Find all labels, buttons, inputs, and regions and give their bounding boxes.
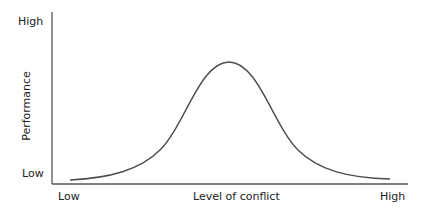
chart-canvas [0,0,429,214]
y-tick-low: Low [22,167,44,180]
performance-curve [70,62,390,180]
y-axis-title: Performance [20,71,33,141]
x-tick-high: High [380,190,405,203]
x-tick-low: Low [58,190,80,203]
y-tick-high: High [18,15,43,28]
x-axis-title: Level of conflict [193,190,280,203]
